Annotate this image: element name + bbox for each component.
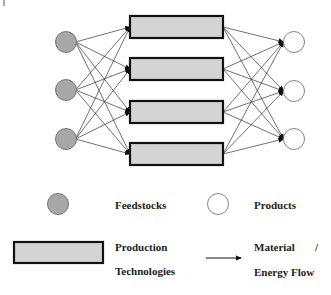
feedstock-node <box>56 80 77 101</box>
legend-feedstocks-label: Feedstocks <box>115 199 166 211</box>
legend-feedstock-icon <box>48 194 69 215</box>
legend-technologies-label-line2: Technologies <box>115 265 175 277</box>
technology-to-product-edges <box>223 27 284 154</box>
flow-edge <box>223 42 284 69</box>
legend-flow-slash: / <box>315 241 318 253</box>
flow-edge <box>76 112 131 139</box>
flow-edge <box>223 69 284 139</box>
legend-flow-label-line1: Material <box>254 241 295 253</box>
product-node <box>284 81 305 102</box>
legend-products-label: Products <box>254 199 296 211</box>
feedstock-to-technology-edges <box>76 27 131 154</box>
feedstock-node <box>56 129 77 150</box>
flow-edge <box>223 27 284 42</box>
product-node <box>284 129 305 150</box>
legend-product-icon <box>208 194 229 215</box>
technology-node <box>130 101 223 123</box>
flow-edge <box>76 27 131 42</box>
flow-edge <box>76 139 131 154</box>
diagram-nodes <box>56 16 305 165</box>
product-node <box>284 32 305 53</box>
flow-edge <box>223 112 284 139</box>
legend-technology-icon <box>14 242 103 263</box>
flow-edge <box>76 42 131 112</box>
feedstock-node <box>56 32 77 53</box>
technology-node <box>130 16 223 38</box>
legend-flow-label-line2: Energy Flow <box>254 266 314 278</box>
legend-technologies-label-line1: Production <box>115 241 167 253</box>
technology-node <box>130 58 223 80</box>
technology-node <box>130 143 223 165</box>
flow-edge <box>223 139 284 154</box>
flow-edge <box>76 42 131 69</box>
